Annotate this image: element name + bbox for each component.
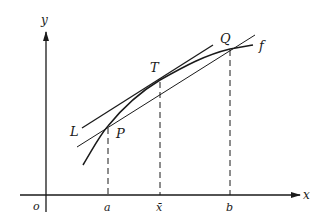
point-label-P: P: [115, 126, 125, 141]
y-axis-label: y: [40, 13, 48, 27]
tick-label-a: a: [104, 201, 111, 214]
tick-label-xbar: x̄: [156, 201, 163, 214]
origin-label: o: [33, 200, 40, 213]
point-label-Q: Q: [220, 31, 231, 46]
curve-label-f: f: [258, 38, 266, 53]
point-label-T: T: [150, 60, 160, 75]
secant-line-L: [77, 35, 255, 147]
curve-f: [83, 45, 253, 165]
tick-label-b: b: [226, 201, 233, 214]
tangent-line-at-T: [82, 45, 213, 128]
line-label-L: L: [69, 124, 79, 139]
mean-value-theorem-diagram: y x o a x̄ b P T Q f L: [0, 0, 311, 223]
x-axis-label: x: [303, 188, 310, 202]
